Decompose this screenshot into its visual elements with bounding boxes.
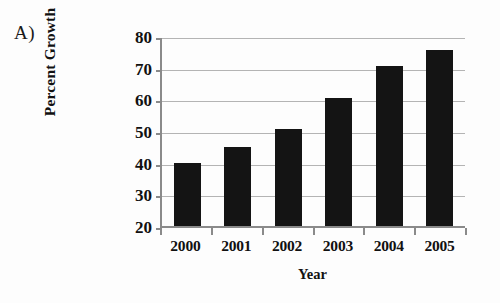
x-tick-mark (465, 228, 467, 235)
bar-slot (162, 38, 213, 226)
y-tick-label: 80 (106, 28, 152, 48)
x-tick-mark (211, 228, 213, 235)
x-axis-title: Year (160, 266, 465, 283)
bar-2004 (376, 66, 403, 226)
x-tick-mark (160, 228, 162, 235)
y-tick-label: 70 (106, 60, 152, 80)
x-tick-label-2002: 2002 (262, 237, 313, 255)
bar-2003 (325, 98, 352, 226)
x-tick-mark (414, 228, 416, 235)
bar-slot (314, 38, 365, 226)
bar-series (162, 38, 465, 226)
y-tick-label: 50 (106, 123, 152, 143)
y-tick-label: 30 (106, 186, 152, 206)
x-tick-mark (363, 228, 365, 235)
x-tick-label-2005: 2005 (414, 237, 465, 255)
bar-slot (213, 38, 264, 226)
x-tick-label-2000: 2000 (160, 237, 211, 255)
bar-2002 (275, 129, 302, 226)
bar-slot (415, 38, 466, 226)
x-tick-label-2001: 2001 (211, 237, 262, 255)
x-tick-mark (262, 228, 264, 235)
x-axis-tick-labels: 200020012002200320042005 (160, 237, 465, 255)
y-tick-label: 40 (106, 155, 152, 175)
bar-2000 (174, 163, 201, 226)
bar-slot (364, 38, 415, 226)
y-tick-label: 20 (106, 218, 152, 238)
x-tick-mark (313, 228, 315, 235)
bar-slot (263, 38, 314, 226)
y-axis-tick-labels: 80706050403020 (104, 38, 152, 228)
plot-area (160, 38, 465, 228)
bar-2005 (426, 50, 453, 226)
figure-panel: A) Percent Growth 80706050403020 2000200… (0, 0, 500, 303)
x-tick-label-2003: 2003 (312, 237, 363, 255)
y-tick-label: 60 (106, 91, 152, 111)
bar-2001 (224, 147, 251, 226)
y-axis-title: Percent Growth (41, 0, 59, 157)
panel-label: A) (14, 22, 35, 44)
x-tick-label-2004: 2004 (363, 237, 414, 255)
